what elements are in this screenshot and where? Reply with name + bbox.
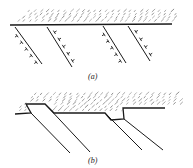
hatch-mark [72, 19, 74, 21]
hatch-mark [158, 12, 161, 15]
hatch-mark [161, 19, 164, 22]
hatch-mark [22, 16, 25, 19]
hatch-mark [121, 96, 123, 98]
hatch-mark [169, 96, 171, 98]
hatch-mark [76, 9, 80, 12]
slip-line [103, 26, 126, 63]
hatch-mark [94, 10, 96, 12]
hatch-mark [87, 12, 90, 15]
hatch-mark [96, 102, 98, 104]
hatch-mark [105, 16, 107, 18]
hatch-mark [40, 13, 42, 15]
hatch-mark [76, 95, 79, 98]
hatch-mark [43, 95, 46, 98]
hatch-mark [133, 99, 135, 101]
hatch-mark [132, 19, 135, 22]
hatch-mark [19, 106, 21, 108]
hatch-mark [100, 99, 102, 101]
hatch-mark [133, 102, 136, 105]
hatch-mark [98, 96, 100, 98]
hatch-mark [140, 16, 142, 18]
hatch-mark [122, 16, 124, 18]
hatch-mark [80, 105, 83, 108]
hatch-mark [174, 16, 177, 19]
panel-a [10, 9, 177, 67]
dislocation-symbol [141, 38, 143, 39]
hatch-mark [157, 95, 160, 98]
hatch-mark [171, 9, 174, 12]
hatch-mark [101, 19, 103, 21]
hatch-mark [122, 92, 125, 95]
hatch-mark [99, 10, 101, 12]
dislocation-symbol [34, 62, 36, 63]
hatch-mark [116, 16, 118, 18]
hatch-mark [85, 105, 88, 108]
hatch-mark [139, 92, 141, 95]
hatch-mark [77, 19, 79, 21]
hatch-mark [120, 102, 122, 104]
hatch-mark [129, 10, 131, 12]
hatch-mark [94, 99, 96, 102]
hatch-mark [124, 9, 127, 12]
hatch-mark [158, 92, 161, 95]
hatch-mark [173, 98, 176, 101]
slip-line [128, 26, 150, 61]
hatch-mark [134, 16, 136, 18]
hatch-mark [164, 10, 166, 12]
slip-diagram [0, 0, 193, 168]
dislocation-symbol [29, 55, 31, 56]
hatch-mark [76, 93, 78, 95]
hatch-mark [58, 108, 61, 111]
hatch-mark [91, 102, 93, 104]
hatch-mark [34, 13, 36, 15]
hatch-mark [158, 10, 160, 12]
hatch-mark [95, 92, 99, 95]
hatch-mark [106, 92, 109, 95]
hatch-mark [108, 102, 111, 105]
hatch-mark [67, 101, 70, 104]
hatch-mark [59, 93, 61, 95]
hatch-mark [28, 10, 30, 12]
hatch-mark [57, 13, 59, 15]
hatch-mark [99, 16, 102, 19]
hatch-mark [84, 19, 87, 22]
hatch-mark [152, 9, 155, 12]
hatch-mark [61, 105, 64, 108]
hatch-mark [88, 10, 90, 12]
hatch-mark [117, 106, 119, 108]
hatch-mark [150, 95, 153, 98]
hatch-mark [56, 96, 58, 99]
hatch-mark [82, 99, 85, 102]
hatch-mark [144, 96, 146, 98]
hatch-mark [18, 19, 20, 21]
hatch-mark [40, 9, 43, 12]
hatch-mark [86, 16, 89, 19]
dislocation-symbol [102, 34, 104, 35]
hatch-mark [81, 12, 84, 15]
hatch-mark [61, 102, 64, 105]
panel-a-label: (a) [88, 72, 97, 81]
hatch-mark [55, 106, 57, 108]
hatch-mark [152, 13, 154, 15]
hatch-mark [135, 13, 137, 15]
hatch-mark [144, 98, 147, 101]
hatch-mark [109, 96, 112, 99]
hatch-mark [163, 16, 166, 19]
slip-line [47, 27, 72, 67]
hatch-mark [115, 101, 119, 104]
hatch-mark [168, 102, 170, 104]
dislocation-symbol [150, 53, 152, 54]
dislocation-symbol [114, 54, 116, 55]
hatch-mark [37, 96, 39, 98]
hatch-mark [164, 93, 166, 95]
hatch-mark [79, 102, 81, 104]
hatch-mark [59, 19, 61, 21]
stepped-surface [15, 104, 165, 120]
hatch-mark [150, 99, 152, 102]
hatch-mark [34, 9, 37, 12]
hatch-mark [65, 19, 68, 22]
hatch-mark [114, 19, 117, 22]
hatch-mark [43, 99, 46, 102]
panel-b-label: (b) [88, 156, 97, 165]
hatch-mark [144, 102, 146, 104]
